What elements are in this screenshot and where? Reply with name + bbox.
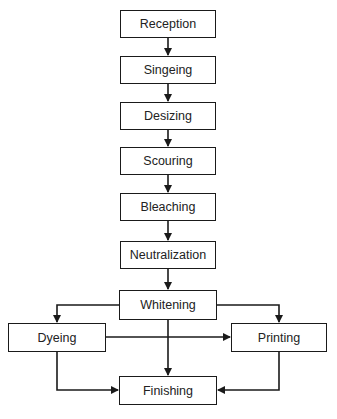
node-whitening: Whitening — [119, 290, 217, 320]
node-neutralization: Neutralization — [120, 241, 216, 269]
node-singeing: Singeing — [120, 56, 216, 84]
node-scouring: Scouring — [120, 147, 216, 175]
node-printing: Printing — [231, 323, 327, 352]
node-desizing: Desizing — [120, 102, 216, 130]
node-finishing: Finishing — [119, 376, 217, 405]
node-reception: Reception — [120, 10, 216, 38]
node-dyeing: Dyeing — [8, 323, 106, 352]
node-bleaching: Bleaching — [120, 193, 216, 221]
